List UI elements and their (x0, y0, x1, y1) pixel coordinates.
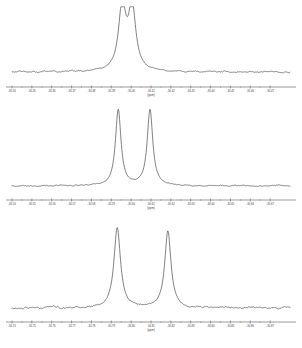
axis-tick-label: -30.82 (167, 324, 175, 328)
axis-tick-label: -30.64 (207, 202, 215, 206)
axis-tick-label: -30.87 (266, 324, 274, 328)
axis-tick-label: -30.84 (207, 324, 215, 328)
axis-tick-label: -30.40 (127, 89, 135, 93)
axis-tick-label: -30.74 (8, 324, 16, 328)
x-axis-title: (ppm) (147, 93, 154, 97)
spectrum-panel-3: -30.74-30.75-30.76-30.77-30.78-30.79-30.… (0, 220, 302, 348)
nmr-spectra-figure: -30.34-30.35-30.36-30.37-30.38-30.39-30.… (0, 0, 302, 348)
axis-tick-label: -30.86 (246, 324, 254, 328)
axis-tick-label: -30.66 (246, 202, 254, 206)
axis-tick-label: -30.60 (127, 202, 135, 206)
axis-tick-label: -30.42 (167, 89, 175, 93)
axis-tick-label: -30.63 (187, 202, 195, 206)
axis-tick-label: -30.46 (246, 89, 254, 93)
axis-tick-label: -30.78 (88, 324, 96, 328)
axis-tick-label: -30.45 (227, 89, 235, 93)
axis-tick-label: -30.35 (28, 89, 36, 93)
axis-tick-label: -30.34 (8, 89, 16, 93)
spectrum-panel-1: -30.34-30.35-30.36-30.37-30.38-30.39-30.… (0, 0, 302, 104)
axis-tick-label: -30.58 (88, 202, 96, 206)
axis-tick-label: -30.77 (68, 324, 76, 328)
spectrum-trace (12, 228, 290, 309)
axis-tick-label: -30.67 (266, 202, 274, 206)
axis-tick-label: -30.56 (48, 202, 56, 206)
axis-tick-label: -30.36 (48, 89, 56, 93)
axis-tick-label: -30.59 (107, 202, 115, 206)
axis-tick-label: -30.38 (88, 89, 96, 93)
axis-tick-label: -30.54 (8, 202, 16, 206)
x-axis-title: (ppm) (147, 328, 154, 332)
spectrum-trace (12, 109, 290, 186)
axis-tick-label: -30.47 (266, 89, 274, 93)
spectrum-panel-2: -30.54-30.55-30.56-30.57-30.58-30.59-30.… (0, 104, 302, 220)
axis-tick-label: -30.57 (68, 202, 76, 206)
axis-tick-label: -30.75 (28, 324, 36, 328)
axis-tick-label: -30.55 (28, 202, 36, 206)
axis-tick-label: -30.79 (107, 324, 115, 328)
spectrum-trace (12, 7, 290, 73)
axis-tick-label: -30.37 (68, 89, 76, 93)
axis-tick-label: -30.85 (227, 324, 235, 328)
axis-tick-label: -30.76 (48, 324, 56, 328)
axis-tick-label: -30.80 (127, 324, 135, 328)
axis-tick-label: -30.62 (167, 202, 175, 206)
x-axis-title: (ppm) (147, 206, 154, 210)
axis-tick-label: -30.83 (187, 324, 195, 328)
axis-tick-label: -30.65 (227, 202, 235, 206)
axis-tick-label: -30.39 (107, 89, 115, 93)
axis-tick-label: -30.44 (207, 89, 215, 93)
axis-tick-label: -30.43 (187, 89, 195, 93)
